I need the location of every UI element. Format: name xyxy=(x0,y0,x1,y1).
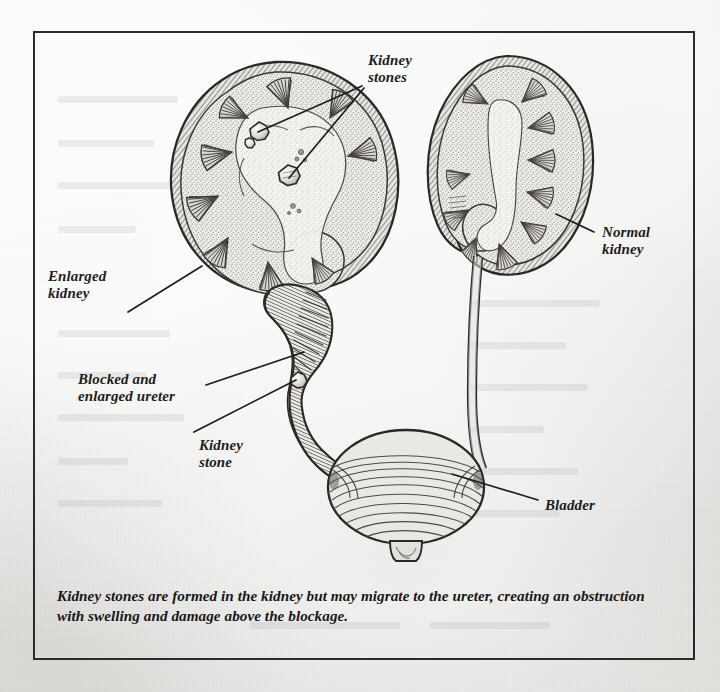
label-normal-kidney: Normal kidney xyxy=(602,224,650,258)
label-kidney-stone: Kidney stone xyxy=(199,437,243,471)
figure-caption: Kidney stones are formed in the kidney b… xyxy=(57,586,657,626)
label-blocked-enlarged-ureter: Blocked and enlarged ureter xyxy=(78,371,175,405)
figure-border xyxy=(33,31,695,660)
figure-page: Kidney stones Enlarged kidney Blocked an… xyxy=(0,0,720,692)
label-bladder: Bladder xyxy=(545,497,595,514)
label-enlarged-kidney: Enlarged kidney xyxy=(48,268,106,302)
label-kidney-stones: Kidney stones xyxy=(368,52,412,86)
